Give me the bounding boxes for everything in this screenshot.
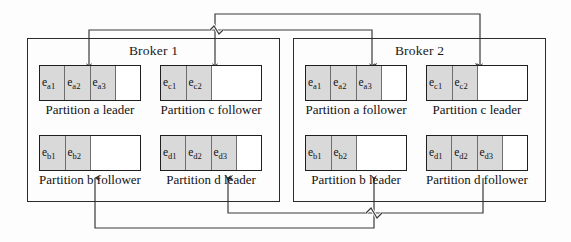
broker-2-title: Broker 2 bbox=[294, 43, 545, 59]
log-segment-cell: eb2 bbox=[332, 136, 358, 170]
cell-label: ec1 bbox=[163, 77, 176, 89]
log-segment-cell: ed1 bbox=[161, 136, 186, 170]
log-segment-empty bbox=[116, 66, 140, 100]
cell-label: ed1 bbox=[429, 147, 443, 159]
partition-d-follower-caption: Partition d follower bbox=[426, 172, 528, 188]
cell-label: eb1 bbox=[308, 147, 322, 159]
cell-label: ed2 bbox=[188, 147, 202, 159]
partition-c-leader-log: ec1 ec2 bbox=[426, 65, 528, 101]
log-segment-cell: ed1 bbox=[427, 136, 452, 170]
replication-diagram: Broker 1 ea1 ea2 ea3 Partition a leader bbox=[0, 0, 571, 242]
log-segment-cell: ea1 bbox=[306, 66, 331, 100]
log-segment-cell: ec2 bbox=[453, 66, 479, 100]
partition-a-leader-log: ea1 ea2 ea3 bbox=[39, 65, 141, 101]
log-segment-empty bbox=[503, 66, 528, 100]
cell-label: eb2 bbox=[334, 147, 348, 159]
log-segment-cell: ed2 bbox=[452, 136, 477, 170]
cell-label: ea3 bbox=[93, 77, 106, 89]
log-segment-cell: ed3 bbox=[212, 136, 237, 170]
partition-c-follower-caption: Partition c follower bbox=[160, 102, 262, 118]
cell-label: eb1 bbox=[42, 147, 56, 159]
cell-label: ec2 bbox=[455, 77, 468, 89]
cell-label: ea2 bbox=[333, 77, 346, 89]
log-segment-empty bbox=[357, 136, 382, 170]
log-segment-empty bbox=[116, 136, 141, 170]
cell-label: ed1 bbox=[163, 147, 177, 159]
partition-c-leader[interactable]: ec1 ec2 Partition c leader bbox=[426, 65, 528, 118]
cell-label: ed2 bbox=[454, 147, 468, 159]
log-segment-cell: ea2 bbox=[331, 66, 356, 100]
log-segment-cell: eb2 bbox=[66, 136, 92, 170]
cell-label: ec1 bbox=[429, 77, 442, 89]
partition-d-follower[interactable]: ed1 ed2 ed3 Partition d follower bbox=[426, 135, 528, 188]
partition-d-leader[interactable]: ed1 ed2 ed3 Partition d leader bbox=[160, 135, 262, 188]
partition-a-leader-caption: Partition a leader bbox=[39, 102, 141, 118]
cell-label: ec2 bbox=[189, 77, 202, 89]
log-segment-empty bbox=[237, 136, 261, 170]
partition-a-leader[interactable]: ea1 ea2 ea3 Partition a leader bbox=[39, 65, 141, 118]
partition-b-follower-log: eb1 eb2 bbox=[39, 135, 141, 171]
log-segment-empty bbox=[503, 136, 527, 170]
log-segment-cell: eb1 bbox=[306, 136, 332, 170]
log-segment-empty bbox=[212, 66, 237, 100]
partition-d-leader-caption: Partition d leader bbox=[160, 172, 262, 188]
cell-label: ea2 bbox=[67, 77, 80, 89]
broker-1-container: Broker 1 ea1 ea2 ea3 Partition a leader bbox=[27, 38, 280, 202]
log-segment-cell: ea1 bbox=[40, 66, 65, 100]
partition-c-leader-caption: Partition c leader bbox=[426, 102, 528, 118]
partition-b-leader-log: eb1 eb2 bbox=[305, 135, 407, 171]
log-segment-cell: ea3 bbox=[357, 66, 382, 100]
cell-label: ea3 bbox=[359, 77, 372, 89]
log-segment-empty bbox=[382, 66, 406, 100]
log-segment-cell: ec2 bbox=[187, 66, 213, 100]
log-segment-cell: ed2 bbox=[186, 136, 211, 170]
cell-label: ea1 bbox=[308, 77, 321, 89]
cell-label: eb2 bbox=[68, 147, 82, 159]
log-segment-cell: eb1 bbox=[40, 136, 66, 170]
partition-a-follower-log: ea1 ea2 ea3 bbox=[305, 65, 407, 101]
partition-b-leader[interactable]: eb1 eb2 Partition b leader bbox=[305, 135, 407, 188]
broker-1-title: Broker 1 bbox=[28, 43, 279, 59]
partition-b-follower-caption: Partition b follower bbox=[39, 172, 141, 188]
log-segment-cell: ea3 bbox=[91, 66, 116, 100]
broker-2-container: Broker 2 ea1 ea2 ea3 Partition a followe… bbox=[293, 38, 546, 202]
cell-label: ed3 bbox=[214, 147, 228, 159]
log-segment-empty bbox=[478, 66, 503, 100]
partition-a-follower[interactable]: ea1 ea2 ea3 Partition a follower bbox=[305, 65, 407, 118]
cell-label: ea1 bbox=[42, 77, 55, 89]
log-segment-cell: ec1 bbox=[427, 66, 453, 100]
partition-b-follower[interactable]: eb1 eb2 Partition b follower bbox=[39, 135, 141, 188]
partition-c-follower[interactable]: ec1 ec2 Partition c follower bbox=[160, 65, 262, 118]
log-segment-empty bbox=[382, 136, 407, 170]
partition-d-follower-log: ed1 ed2 ed3 bbox=[426, 135, 528, 171]
log-segment-cell: ec1 bbox=[161, 66, 187, 100]
partition-c-follower-log: ec1 ec2 bbox=[160, 65, 262, 101]
log-segment-cell: ea2 bbox=[65, 66, 90, 100]
partition-a-follower-caption: Partition a follower bbox=[305, 102, 407, 118]
cell-label: ed3 bbox=[480, 147, 494, 159]
log-segment-empty bbox=[91, 136, 116, 170]
log-segment-empty bbox=[237, 66, 262, 100]
partition-d-leader-log: ed1 ed2 ed3 bbox=[160, 135, 262, 171]
partition-b-leader-caption: Partition b leader bbox=[305, 172, 407, 188]
log-segment-cell: ed3 bbox=[478, 136, 503, 170]
